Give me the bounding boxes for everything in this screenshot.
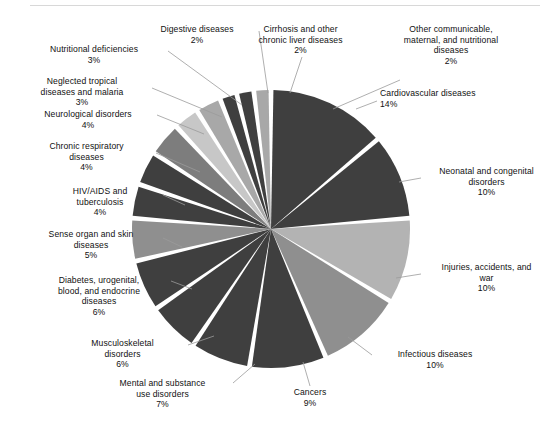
callout-label-text: Cancers	[294, 387, 327, 397]
callout-label-percent: 10%	[424, 187, 549, 198]
leader-line-cardiovascular-diseases	[356, 101, 377, 109]
callout-label-percent: 4%	[40, 207, 160, 218]
callout-label-mental-and-substance-use-disorders: Mental and substance use disorders7%	[95, 378, 230, 410]
leader-line-mental-and-substance-use-disorders	[233, 364, 255, 383]
pie-chart-figure: Cardiovascular diseases14%Neonatal and c…	[0, 0, 549, 434]
callout-label-percent: 4%	[22, 120, 154, 131]
callout-label-text: Chronic respiratory diseases	[49, 141, 123, 162]
callout-label-percent: 7%	[95, 399, 230, 410]
callout-label-injuries-accidents-and-war: Injuries, accidents, and war10%	[424, 262, 549, 294]
callout-label-text: Injuries, accidents, and war	[442, 262, 532, 283]
leader-line-nutritional-deficiencies	[168, 51, 242, 105]
callout-label-text: HIV/AIDS and tuberculosis	[73, 186, 128, 207]
callout-label-text: Cirrhosis and other chronic liver diseas…	[258, 24, 342, 45]
callout-label-text: Other communicable, maternal, and nutrit…	[404, 24, 498, 55]
callout-label-infectious-diseases: Infectious diseases10%	[375, 349, 495, 370]
callout-label-hiv-aids-and-tuberculosis: HIV/AIDS and tuberculosis4%	[40, 186, 160, 218]
leader-line-neglected-tropical-diseases-and-malaria	[152, 88, 222, 117]
callout-label-text: Diabetes, urogenital, blood, and endocri…	[58, 275, 140, 306]
callout-label-text: Digestive diseases	[160, 24, 233, 34]
pie-slices-group	[132, 90, 410, 368]
callout-label-text: Neglected tropical diseases and malaria	[41, 76, 124, 97]
leader-line-infectious-diseases	[348, 337, 372, 355]
callout-label-text: Nutritional deficiencies	[50, 44, 138, 54]
callout-label-percent: 2%	[376, 56, 526, 67]
callout-label-percent: 10%	[424, 283, 549, 294]
callout-label-text: Cardiovascular diseases	[380, 88, 476, 98]
callout-label-text: Infectious diseases	[398, 349, 473, 359]
callout-label-percent: 14%	[380, 99, 545, 110]
leader-line-cancers	[303, 362, 310, 386]
callout-label-sense-organ-and-skin-diseases: Sense organ and skin diseases5%	[22, 229, 160, 261]
callout-label-text: Neurological disorders	[44, 109, 131, 119]
callout-label-text: Mental and substance use disorders	[120, 378, 206, 399]
callout-label-musculoskeletal-disorders: Musculoskeletal disorders6%	[60, 338, 185, 370]
callout-label-percent: 6%	[60, 359, 185, 370]
callout-label-text: Musculoskeletal disorders	[91, 338, 153, 359]
callout-label-percent: 10%	[375, 360, 495, 371]
leader-line-neonatal-and-congenital-disorders	[399, 178, 421, 182]
callout-label-percent: 6%	[30, 307, 168, 318]
callout-label-other-communicable-maternal-and-nutritional-diseases: Other communicable, maternal, and nutrit…	[376, 24, 526, 66]
callout-label-percent: 3%	[16, 97, 148, 108]
callout-label-percent: 4%	[20, 162, 153, 173]
callout-label-diabetes-urogenital-blood-and-endocrine-diseases: Diabetes, urogenital, blood, and endocri…	[30, 275, 168, 317]
callout-label-neglected-tropical-diseases-and-malaria: Neglected tropical diseases and malaria3…	[16, 76, 148, 108]
leader-line-cirrhosis-and-other-chronic-liver-diseases	[290, 57, 302, 93]
callout-label-percent: 3%	[24, 55, 164, 66]
callout-label-neurological-disorders: Neurological disorders4%	[22, 109, 154, 130]
callout-label-percent: 9%	[265, 398, 355, 409]
callout-label-neonatal-and-congenital-disorders: Neonatal and congenital disorders10%	[424, 166, 549, 198]
callout-label-percent: 5%	[22, 250, 160, 261]
callout-label-percent: 2%	[233, 45, 368, 56]
callout-label-chronic-respiratory-diseases: Chronic respiratory diseases4%	[20, 141, 153, 173]
callout-label-nutritional-deficiencies: Nutritional deficiencies3%	[24, 44, 164, 65]
callout-label-cancers: Cancers9%	[265, 387, 355, 408]
callout-label-text: Neonatal and congenital disorders	[439, 166, 534, 187]
callout-label-cardiovascular-diseases: Cardiovascular diseases14%	[380, 88, 545, 109]
callout-label-text: Sense organ and skin diseases	[49, 229, 134, 250]
callout-label-cirrhosis-and-other-chronic-liver-diseases: Cirrhosis and other chronic liver diseas…	[233, 24, 368, 56]
